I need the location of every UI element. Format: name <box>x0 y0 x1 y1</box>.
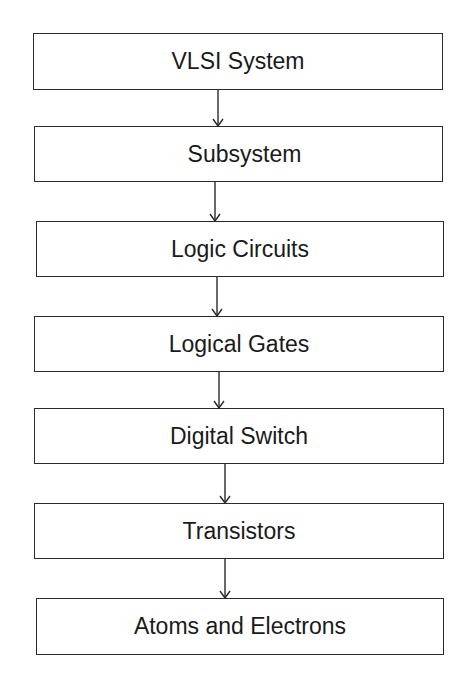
connector-arrows <box>0 0 467 688</box>
arrow-down-icon <box>212 277 222 316</box>
arrow-down-icon <box>214 372 224 408</box>
arrow-down-icon <box>210 182 220 221</box>
arrow-down-icon <box>213 89 223 126</box>
arrow-down-icon <box>220 559 230 598</box>
arrow-down-icon <box>220 464 230 503</box>
